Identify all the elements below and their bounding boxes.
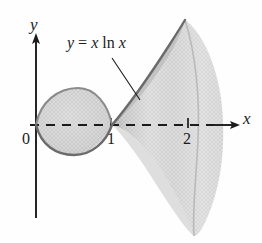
equation-natural-log: ln xyxy=(98,34,118,51)
x-tick-label-1: 1 xyxy=(107,131,115,147)
figure-container: y x 0 1 2 y = x ln x xyxy=(0,0,262,243)
equation-rhs-argument: x xyxy=(119,34,126,51)
y-axis-label: y xyxy=(30,16,38,33)
x-tick-label-2: 2 xyxy=(183,131,191,147)
solid-of-revolution-svg xyxy=(0,0,262,243)
equation-equals: = xyxy=(74,34,91,51)
solid-of-revolution-right xyxy=(112,20,223,236)
curve-equation-label: y = x ln x xyxy=(67,35,126,51)
x-axis-label: x xyxy=(243,110,251,127)
equation-leader-line xyxy=(112,58,140,100)
origin-tick-label: 0 xyxy=(22,131,30,147)
